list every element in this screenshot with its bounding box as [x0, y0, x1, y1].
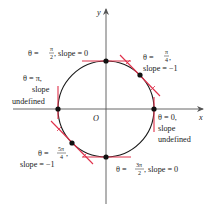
svg-text:π: π: [165, 49, 168, 55]
svg-text:slope: slope: [32, 85, 50, 94]
polar-tangent-diagram: x y O θ = π 2 , slope = 0: [0, 0, 214, 209]
label-0: θ = 0, slope undefined: [158, 113, 191, 144]
svg-text:4: 4: [165, 57, 168, 63]
svg-text:θ = π,: θ = π,: [23, 74, 42, 83]
svg-text:slope = −1: slope = −1: [20, 160, 55, 169]
svg-text:5π: 5π: [58, 146, 64, 152]
svg-text:,: ,: [169, 53, 171, 62]
svg-text:π: π: [50, 46, 53, 52]
svg-text:slope = −1: slope = −1: [143, 64, 178, 73]
svg-text:, slope = 0: , slope = 0: [54, 49, 88, 58]
svg-text:,: ,: [66, 149, 68, 158]
svg-text:undefined: undefined: [12, 97, 45, 106]
svg-text:θ =: θ =: [38, 149, 49, 158]
label-pi: θ = π, slope undefined: [12, 74, 50, 106]
svg-text:3π: 3π: [136, 162, 142, 168]
point-3pi-over-2: [103, 154, 108, 159]
svg-text:2: 2: [138, 170, 141, 176]
y-axis-label: y: [96, 8, 101, 17]
point-pi-over-4: [137, 72, 142, 77]
svg-text:4: 4: [60, 154, 63, 160]
point-5pi-over-4: [69, 140, 74, 145]
origin-label: O: [93, 114, 99, 123]
point-pi-over-2: [103, 58, 108, 63]
point-pi: [55, 106, 60, 111]
svg-text:slope: slope: [158, 124, 176, 133]
x-axis-label: x: [198, 113, 203, 122]
svg-text:θ =: θ =: [28, 49, 39, 58]
point-0: [151, 106, 156, 111]
label-5pi-over-4: θ = 5π 4 , slope = −1: [20, 146, 68, 169]
svg-text:θ = 0,: θ = 0,: [158, 113, 177, 122]
label-pi-over-2: θ = π 2 , slope = 0: [28, 46, 88, 60]
svg-text:, slope = 0: , slope = 0: [144, 165, 178, 174]
svg-text:2: 2: [50, 54, 53, 60]
diagram-canvas: x y O θ = π 2 , slope = 0: [0, 0, 214, 209]
label-3pi-over-2: θ = 3π 2 , slope = 0: [116, 162, 178, 176]
svg-text:undefined: undefined: [158, 135, 191, 144]
label-pi-over-4: θ = π 4 , slope = −1: [143, 49, 178, 73]
svg-text:θ =: θ =: [116, 165, 127, 174]
svg-text:θ =: θ =: [143, 53, 154, 62]
